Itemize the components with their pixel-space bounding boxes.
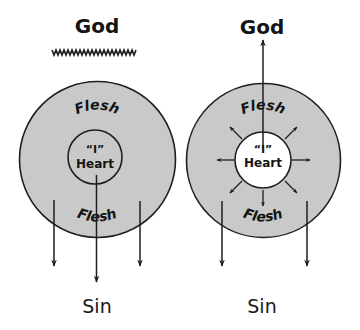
right-sin-label: Sin	[247, 295, 276, 317]
right-diagram: God Flesh Flesh “I” Heart Sin	[187, 15, 341, 317]
left-i-label: “I”	[86, 143, 105, 156]
separator-zigzag-icon	[52, 50, 136, 55]
right-heart-label: Heart	[244, 156, 282, 170]
left-heart-label: Heart	[76, 157, 114, 171]
left-sin-label: Sin	[82, 295, 111, 317]
left-god-label: God	[75, 14, 119, 38]
flesh-heart-diagram: God Flesh Flesh “I” Heart Sin God Flesh …	[0, 0, 360, 330]
right-god-label: God	[240, 15, 284, 39]
right-i-label: “I”	[254, 143, 273, 156]
left-diagram: God Flesh Flesh “I” Heart Sin	[20, 14, 176, 317]
